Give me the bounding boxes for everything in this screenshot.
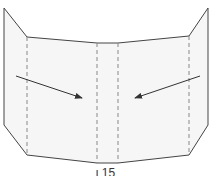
folded-panel-diagram	[0, 0, 211, 176]
panel-outline	[4, 8, 208, 163]
figure-caption: ι 15	[0, 166, 211, 176]
